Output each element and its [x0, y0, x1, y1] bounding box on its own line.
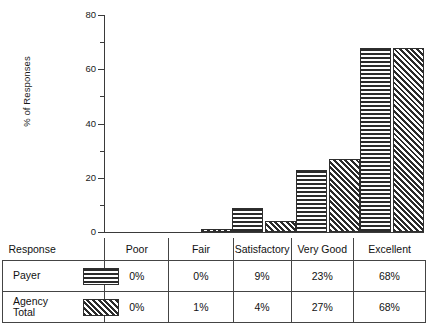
legend-cell-payer: Payer [3, 261, 105, 292]
y-tick-label-20: 20 [56, 173, 96, 183]
cell-agency-satisfactory: 4% [233, 292, 291, 323]
plot-area: % of Responses 80 60 40 20 0 [0, 0, 428, 240]
table-header-row: Response Poor Fair Satisfactory Very Goo… [3, 238, 426, 261]
y-tick-label-0: 0 [56, 227, 96, 237]
bar-agency-total-satisfactory [265, 221, 296, 232]
legend-cell-agency-total: AgencyTotal [3, 292, 105, 323]
horizontal-lines-swatch-icon [83, 268, 119, 285]
legend-label-payer: Payer [13, 270, 75, 281]
y-tick-label-40: 40 [56, 119, 96, 129]
table-row-payer: Payer 0% 0% 9% 23% 68% [3, 261, 426, 292]
y-axis-label: % of Responses [21, 22, 32, 162]
bar-agency-total-excellent [393, 48, 424, 232]
table-header-response: Response [3, 238, 105, 261]
cell-payer-fair: 0% [169, 261, 233, 292]
table-header-poor: Poor [105, 238, 169, 261]
y-tick-0 [98, 232, 104, 233]
legend-label-agency-total: AgencyTotal [13, 296, 75, 319]
table-header-excellent: Excellent [353, 238, 425, 261]
cell-agency-fair: 1% [169, 292, 233, 323]
bar-group-fair [168, 15, 232, 232]
bar-payer-excellent [360, 48, 391, 232]
bar-group-poor [104, 15, 168, 232]
legend-label-agency-line2: Total [13, 306, 35, 318]
table-header-fair: Fair [169, 238, 233, 261]
bar-group-very-good [296, 15, 360, 232]
cell-payer-very-good: 23% [291, 261, 353, 292]
bar-agency-total-very-good [329, 159, 360, 232]
table-header-satisfactory: Satisfactory [233, 238, 291, 261]
y-tick-label-60: 60 [56, 64, 96, 74]
cell-agency-very-good: 27% [291, 292, 353, 323]
bar-group-satisfactory [232, 15, 296, 232]
cell-agency-excellent: 68% [353, 292, 425, 323]
bar-agency-total-fair [201, 229, 232, 232]
diagonal-hatch-swatch-icon [83, 299, 119, 316]
bar-group-excellent [360, 15, 424, 232]
table-header-very-good: Very Good [291, 238, 353, 261]
bar-groups [104, 15, 424, 232]
x-axis-line [104, 232, 424, 233]
y-tick-label-80: 80 [56, 10, 96, 20]
data-table: Response Poor Fair Satisfactory Very Goo… [2, 238, 426, 323]
legend-label-agency-line1: Agency [13, 295, 48, 307]
cell-payer-satisfactory: 9% [233, 261, 291, 292]
bar-payer-very-good [296, 170, 327, 232]
table-row-agency-total: AgencyTotal 0% 1% 4% 27% 68% [3, 292, 426, 323]
bar-payer-satisfactory [232, 208, 263, 232]
cell-payer-excellent: 68% [353, 261, 425, 292]
